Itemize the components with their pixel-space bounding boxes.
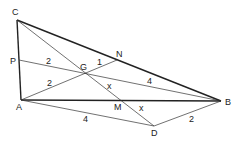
point-label-G: G xyxy=(80,62,87,72)
segment-label-GN: 1 xyxy=(97,57,102,67)
point-label-C: C xyxy=(12,7,19,17)
segment-AN xyxy=(21,60,117,100)
point-label-M: M xyxy=(114,102,122,112)
segment-label-DB: 2 xyxy=(189,114,194,124)
point-label-A: A xyxy=(16,102,22,112)
segment-label-PG: 2 xyxy=(46,56,51,66)
geometry-diagram: C P A G N M B D 2 2 1 4 x x 4 2 xyxy=(0,0,240,148)
segment-label-AD: 4 xyxy=(83,114,88,124)
segment-label-GM: x xyxy=(107,81,112,91)
segment-DB xyxy=(154,101,221,126)
segment-label-GB: 4 xyxy=(147,76,152,86)
segment-label-AG: 2 xyxy=(47,78,52,88)
point-label-N: N xyxy=(116,49,123,59)
point-label-P: P xyxy=(10,56,16,66)
point-label-B: B xyxy=(225,97,231,107)
point-label-D: D xyxy=(151,128,158,138)
segment-label-MD: x xyxy=(139,103,144,113)
